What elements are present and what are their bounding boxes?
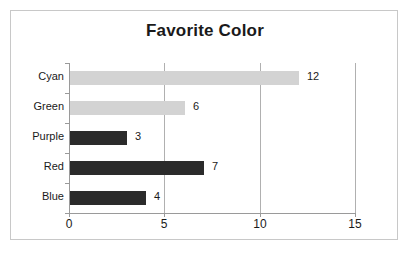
bar-cyan[interactable] (70, 71, 299, 85)
y-axis-tick (65, 153, 69, 154)
bar-blue[interactable] (70, 191, 146, 205)
category-label-blue: Blue (42, 190, 64, 202)
bar-red[interactable] (70, 161, 204, 175)
gridline-10 (260, 63, 261, 213)
category-label-cyan: Cyan (38, 70, 64, 82)
y-axis-tick (65, 183, 69, 184)
y-axis-category-labels: Cyan Green Purple Red Blue (11, 63, 64, 213)
x-axis-label-5: 5 (161, 217, 168, 231)
y-axis-tick (65, 63, 69, 64)
gridline-15 (355, 63, 356, 213)
bar-green[interactable] (70, 101, 185, 115)
bar-purple[interactable] (70, 131, 127, 145)
plot-area: 12 6 3 7 4 (69, 63, 356, 213)
x-axis-label-15: 15 (348, 217, 361, 231)
bar-value-cyan: 12 (307, 70, 319, 82)
chart-frame: Favorite Color Cyan Green Purple Red Blu… (10, 10, 398, 240)
bar-value-green: 6 (193, 100, 199, 112)
category-label-green: Green (33, 100, 64, 112)
x-axis-label-10: 10 (253, 217, 266, 231)
gridline-5 (164, 63, 165, 213)
y-axis-tick (65, 93, 69, 94)
category-label-red: Red (44, 160, 64, 172)
bar-value-purple: 3 (135, 130, 141, 142)
bar-value-blue: 4 (154, 190, 160, 202)
y-axis-tick (65, 123, 69, 124)
x-axis-label-0: 0 (66, 217, 73, 231)
category-label-purple: Purple (32, 130, 64, 142)
x-axis-line (69, 213, 356, 214)
bar-value-red: 7 (212, 160, 218, 172)
chart-title: Favorite Color (11, 21, 399, 41)
